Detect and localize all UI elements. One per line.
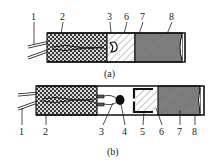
label-b-5: 5 xyxy=(140,126,145,137)
label-a-3: 3 xyxy=(107,11,112,22)
label-a-6: 6 xyxy=(124,11,129,22)
charge-7-b xyxy=(158,86,200,115)
ignition-bead-4-b xyxy=(116,95,125,105)
figure-b: 1 2 3 4 5 6 7 8 (b) xyxy=(18,86,204,158)
detonator-diagram: 1 2 3 6 7 8 (a) xyxy=(0,0,221,167)
caption-a: (a) xyxy=(104,68,115,80)
caption-b: (b) xyxy=(107,146,119,158)
label-a-2: 2 xyxy=(60,11,65,22)
label-a-1: 1 xyxy=(31,11,36,22)
label-a-7: 7 xyxy=(140,11,145,22)
charge-6-a xyxy=(107,33,135,62)
label-b-2: 2 xyxy=(43,126,48,137)
label-b-6: 6 xyxy=(159,126,164,137)
bridge-wire-3-b xyxy=(104,95,117,99)
charge-7-a xyxy=(135,33,182,62)
label-b-3: 3 xyxy=(99,126,104,137)
figure-a: 1 2 3 6 7 8 (a) xyxy=(28,11,185,80)
label-a-8: 8 xyxy=(169,11,174,22)
label-b-4: 4 xyxy=(122,126,127,137)
label-b-8: 8 xyxy=(192,126,197,137)
charge-6-b xyxy=(136,90,157,111)
label-b-7: 7 xyxy=(177,126,182,137)
label-b-1: 1 xyxy=(19,126,24,137)
